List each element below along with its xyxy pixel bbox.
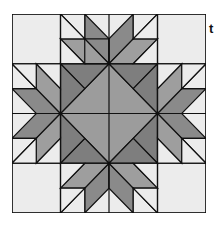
quilt-block-figure (12, 14, 206, 213)
quilt-block-svg (12, 14, 206, 213)
side-label-text: t (209, 22, 213, 35)
